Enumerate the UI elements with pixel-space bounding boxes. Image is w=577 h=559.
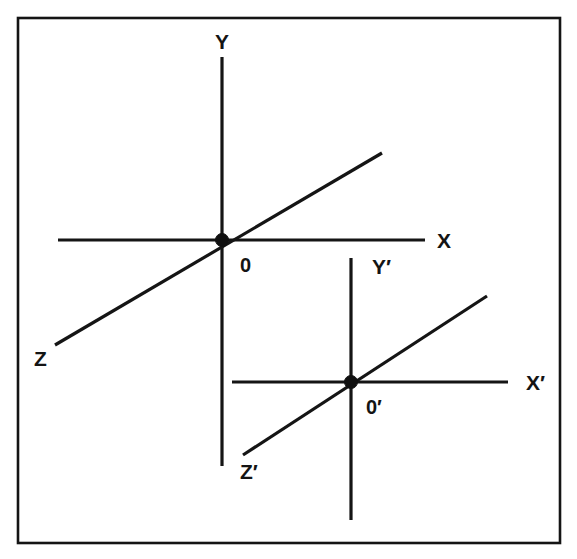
z-prime-axis-line (243, 296, 487, 455)
coordinate-systems-diagram: X Y Z 0 X′ Y′ Z′ 0′ (0, 0, 577, 559)
z-prime-axis-label: Z′ (240, 460, 258, 483)
y-prime-axis-label: Y′ (372, 255, 391, 278)
x-prime-axis-label: X′ (526, 371, 545, 394)
coordinate-system-unprimed: X Y Z 0 (34, 30, 451, 466)
z-axis-label: Z (34, 347, 47, 370)
origin-prime-label: 0′ (366, 396, 382, 418)
figure-border (18, 18, 560, 543)
coordinate-system-primed: X′ Y′ Z′ 0′ (232, 255, 545, 520)
y-axis-label: Y (215, 30, 229, 53)
origin-prime-point-marker (345, 376, 358, 389)
x-axis-label: X (437, 229, 451, 252)
origin-point-marker (216, 234, 229, 247)
z-axis-line (55, 153, 382, 345)
origin-label: 0 (240, 254, 251, 276)
figure-canvas: X Y Z 0 X′ Y′ Z′ 0′ (0, 0, 577, 559)
